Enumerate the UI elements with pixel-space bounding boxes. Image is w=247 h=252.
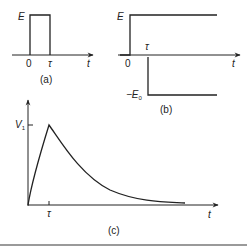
panel-a-rectangular-pulse: E 0 τ t (a)	[12, 11, 93, 85]
diagram-canvas: E 0 τ t (a) E 0 τ t −E0 (b) V1 τ t (c)	[0, 0, 247, 252]
panel-a-axis-label: t	[87, 58, 91, 69]
panel-a-tau-label: τ	[48, 58, 53, 69]
panel-c-peak-label: V1	[15, 119, 26, 131]
panel-c-response-waveform	[28, 125, 185, 205]
panel-b-negative-step	[148, 57, 217, 95]
panel-a-pulse-waveform	[30, 15, 50, 55]
panel-b-origin-label: 0	[125, 58, 131, 69]
panel-c-response-curve: V1 τ t (c)	[15, 100, 218, 236]
panel-c-tau-label: τ	[47, 208, 52, 219]
panel-c-caption: (c)	[108, 225, 120, 236]
panel-b-neg-level-label: −E0	[126, 89, 143, 101]
panel-b-positive-step	[120, 15, 217, 55]
panel-a-caption: (a)	[40, 74, 52, 85]
panel-a-origin-label: 0	[26, 58, 32, 69]
panel-a-level-label: E	[18, 11, 25, 22]
panel-b-axis-label: t	[232, 58, 236, 69]
panel-b-level-label: E	[117, 11, 124, 22]
footer-divider	[0, 244, 247, 246]
panel-b-caption: (b)	[160, 104, 172, 115]
panel-c-axis-label: t	[208, 209, 212, 220]
panel-b-tau-label: τ	[145, 41, 150, 52]
panel-b-step-waveforms: E 0 τ t −E0 (b)	[117, 11, 240, 115]
